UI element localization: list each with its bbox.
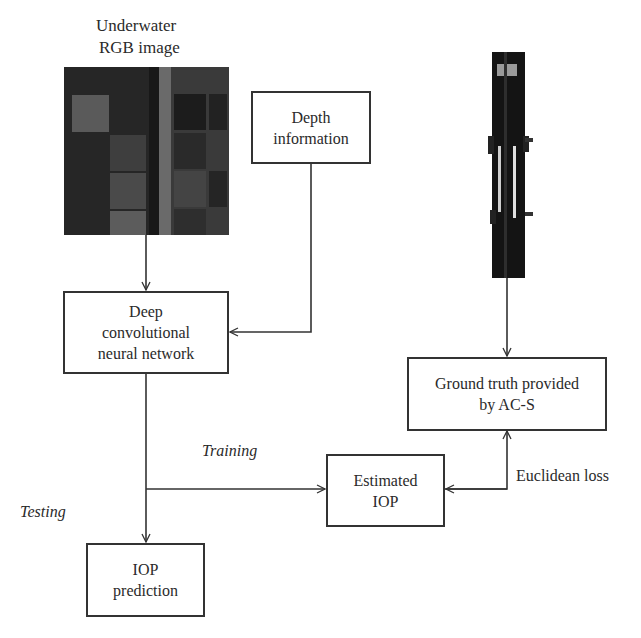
euclidean-loss-label: Euclidean loss (516, 466, 609, 486)
depth-line1: Depth (273, 107, 349, 128)
depth-line2: information (273, 128, 349, 149)
ground-truth-line2: by AC-S (435, 394, 579, 415)
iop-prediction-line2: prediction (113, 580, 178, 601)
estimated-iop-line1: Estimated (354, 470, 418, 491)
estimated-iop-line2: IOP (354, 491, 418, 512)
dcnn-box: Deep convolutional neural network (63, 291, 229, 374)
testing-label: Testing (20, 502, 66, 522)
dcnn-line2: convolutional (98, 322, 194, 343)
iop-prediction-box: IOP prediction (86, 543, 205, 617)
training-label: Training (202, 441, 257, 461)
estimated-iop-box: Estimated IOP (326, 454, 445, 527)
dcnn-line3: neural network (98, 343, 194, 364)
ground-truth-box: Ground truth provided by AC-S (407, 357, 607, 431)
ground-truth-line1: Ground truth provided (435, 373, 579, 394)
depth-information-box: Depth information (251, 91, 371, 164)
dcnn-line1: Deep (98, 301, 194, 322)
iop-prediction-line1: IOP (113, 559, 178, 580)
